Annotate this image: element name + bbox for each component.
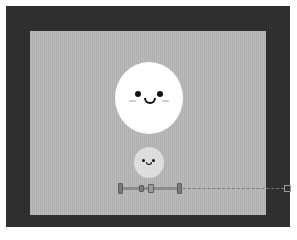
small-smiley-character[interactable] <box>134 147 164 178</box>
mouth-icon <box>146 162 152 165</box>
left-eye-icon <box>135 91 141 97</box>
slider-mid-handle[interactable] <box>139 185 144 192</box>
right-eye-icon <box>152 159 155 162</box>
right-eye-icon <box>157 91 163 97</box>
slider-left-handle[interactable] <box>118 183 123 194</box>
slider-right-handle[interactable] <box>177 183 182 194</box>
timeline-slider[interactable] <box>118 183 290 193</box>
right-blush <box>162 100 169 102</box>
mouth-icon <box>144 98 156 104</box>
slider-center-knob[interactable] <box>148 184 154 193</box>
big-smiley-character[interactable] <box>115 62 183 134</box>
left-eye-icon <box>142 159 145 162</box>
slider-end-marker[interactable] <box>284 185 291 192</box>
slider-dashed-line <box>178 188 284 189</box>
left-blush <box>129 100 136 102</box>
